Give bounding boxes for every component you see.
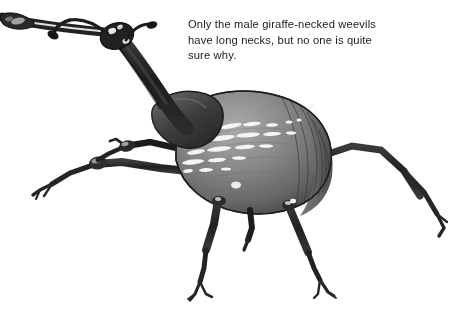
caption-text: Only the male giraffe-necked weevils hav… <box>188 17 418 64</box>
page-root: Only the male giraffe-necked weevils hav… <box>0 0 450 316</box>
